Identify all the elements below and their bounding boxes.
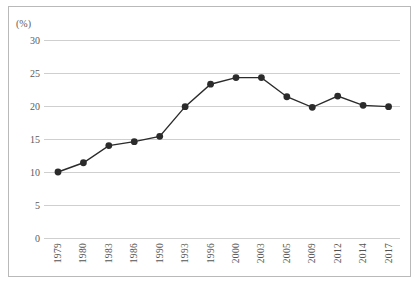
chart-screenshot: (%) 051015202530 19791980198319861990199… bbox=[0, 0, 419, 291]
data-point-marker bbox=[156, 133, 163, 140]
plot-area: 051015202530 197919801983198619901993199… bbox=[0, 0, 419, 291]
data-point-marker bbox=[309, 104, 316, 111]
data-point-marker bbox=[131, 138, 138, 145]
data-point-marker bbox=[385, 103, 392, 110]
data-series-svg bbox=[0, 0, 419, 291]
data-markers-group bbox=[55, 74, 392, 175]
data-point-marker bbox=[258, 74, 265, 81]
data-line bbox=[58, 78, 389, 172]
data-point-marker bbox=[233, 74, 240, 81]
data-point-marker bbox=[334, 93, 341, 100]
data-point-marker bbox=[55, 169, 62, 176]
data-point-marker bbox=[182, 103, 189, 110]
data-point-marker bbox=[360, 102, 367, 109]
data-point-marker bbox=[207, 81, 214, 88]
data-point-marker bbox=[80, 159, 87, 166]
data-point-marker bbox=[105, 142, 112, 149]
data-point-marker bbox=[283, 93, 290, 100]
